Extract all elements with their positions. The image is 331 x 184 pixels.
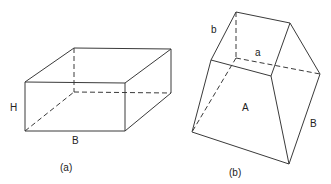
top-front-edge [211, 60, 271, 76]
label-B-a: B [72, 135, 79, 146]
top-back-edge [74, 48, 171, 49]
diagram-canvas: H B (a) b a A B (b) [0, 0, 331, 184]
bottom-right-edge [125, 93, 171, 131]
caption-a: (a) [60, 162, 72, 173]
top-right-edge [125, 49, 171, 83]
caption-b: (b) [229, 167, 241, 178]
top-left-edge-b [211, 12, 236, 60]
bottom-front-edge [192, 132, 289, 164]
label-A: A [242, 102, 249, 113]
label-a: a [255, 47, 261, 58]
front-face [25, 82, 125, 131]
hidden-back-edge [236, 58, 320, 74]
label-B-b: B [310, 118, 317, 129]
top-back-edge [236, 12, 290, 23]
front-left-edge [192, 60, 211, 132]
top-right-to-right-vertex [290, 23, 320, 74]
hidden-diagonal-edge [192, 58, 236, 132]
top-left-edge [25, 48, 74, 82]
front-right-edge [271, 76, 289, 164]
hidden-back-bottom-edge [74, 92, 171, 93]
label-b: b [211, 24, 217, 35]
label-H: H [10, 102, 17, 113]
hidden-bottom-left-edge [25, 92, 74, 131]
figure-a-box [25, 48, 171, 131]
